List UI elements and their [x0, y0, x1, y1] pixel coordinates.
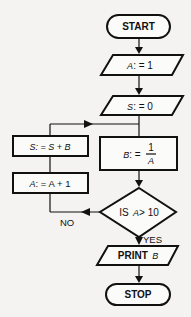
fraction-denominator: A: [147, 156, 154, 166]
arrow-down-icon: [135, 276, 143, 283]
svg-text:S: = 0: S: = 0: [127, 101, 153, 112]
stop-label: STOP: [124, 289, 151, 300]
print-prefix: PRINT: [118, 250, 148, 261]
decision-prefix: IS: [119, 207, 129, 218]
svg-text:B: =: B: =: [123, 149, 141, 160]
arrow-down-icon: [135, 88, 143, 95]
svg-text:S: = S + B: S: = S + B: [29, 142, 70, 152]
accumulate-process: S: = S + B: [13, 136, 88, 156]
svg-text:A: = 1: A: = 1: [126, 60, 153, 71]
init-s-io: S: = 0: [101, 96, 183, 115]
init-a-op: : = 1: [133, 60, 153, 71]
svg-text:A: = A + 1: A: = A + 1: [29, 178, 71, 189]
arrow-down-icon: [135, 180, 143, 187]
fraction-numerator: 1: [148, 142, 154, 153]
arrow-right-icon: [84, 120, 93, 128]
increment-op: : = A + 1: [36, 178, 71, 189]
yes-label: YES: [143, 234, 162, 245]
print-var: B: [152, 251, 158, 261]
decision-op: > 10: [139, 207, 159, 218]
flowchart: START A: = 1 S: = 0 B: = 1 A S: = S + B: [0, 0, 191, 317]
arrow-left-icon: [81, 208, 90, 216]
init-a-io: A: = 1: [101, 55, 183, 75]
arrow-down-icon: [135, 47, 143, 54]
arrow-down-icon: [135, 237, 143, 245]
decision-var: A: [132, 208, 139, 218]
no-label: NO: [60, 217, 74, 228]
init-s-op: : = 0: [133, 101, 153, 112]
print-io: PRINT B: [97, 245, 178, 265]
decision-diamond: IS A> 10: [100, 188, 176, 237]
init-a-var: A: [126, 61, 133, 71]
compute-b-process: B: = 1 A: [100, 137, 177, 170]
start-terminator: START: [107, 15, 170, 38]
compute-b-op: : =: [129, 149, 141, 160]
start-label: START: [122, 21, 155, 32]
stop-terminator: STOP: [106, 284, 170, 305]
increment-process: A: = A + 1: [13, 173, 88, 193]
increment-var: A: [29, 179, 36, 189]
accumulate-op: : = S + B: [35, 142, 70, 152]
